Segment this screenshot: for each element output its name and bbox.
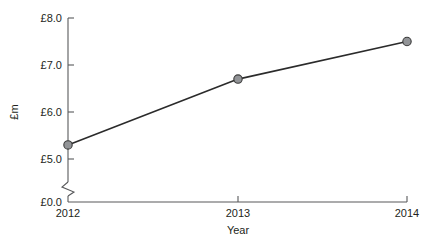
chart-canvas: £8.0 £7.0 £6.0 £5.0 £0.0 2012 2013 2014 … [0,0,434,245]
data-point-2014 [403,37,411,45]
x-tick-label-2012: 2012 [56,207,80,219]
series-line [68,42,407,145]
data-point-2012 [64,141,72,149]
y-tick-label-8: £8.0 [41,12,62,24]
y-axis-break-icon [62,182,74,196]
y-tick-label-7: £7.0 [41,59,62,71]
y-tick-label-5: £5.0 [41,153,62,165]
y-tick-label-6: £6.0 [41,106,62,118]
x-axis-title: Year [227,224,250,236]
x-tick-label-2013: 2013 [226,207,250,219]
x-tick-label-2014: 2014 [395,207,419,219]
data-point-2013 [234,75,242,83]
y-axis-title: £m [8,104,20,119]
line-chart: £8.0 £7.0 £6.0 £5.0 £0.0 2012 2013 2014 … [0,0,434,245]
